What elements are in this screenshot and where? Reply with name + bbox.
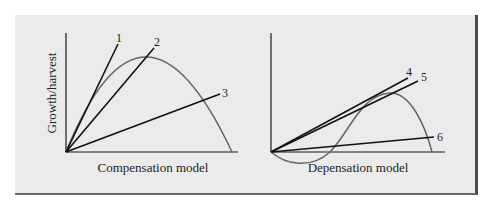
- figure-svg: 1 2 3 Growth/harvest Compensation model …: [0, 0, 493, 207]
- line-label-6: 6: [437, 130, 443, 144]
- line-label-4: 4: [406, 65, 412, 79]
- line-label-1: 1: [116, 31, 122, 45]
- depensation-chart: 4 5 6 Depensation model: [271, 33, 445, 175]
- line-label-2: 2: [154, 35, 160, 49]
- line-label-5: 5: [421, 70, 427, 84]
- harvest-line-2: [66, 48, 154, 152]
- x-axis-label: Depensation model: [308, 160, 409, 175]
- compensation-chart: 1 2 3 Growth/harvest Compensation model: [44, 31, 238, 175]
- growth-curve: [271, 93, 432, 163]
- line-label-3: 3: [222, 86, 228, 100]
- harvest-line-5: [271, 81, 418, 152]
- y-axis-label: Growth/harvest: [44, 52, 59, 133]
- x-axis-label: Compensation model: [98, 160, 209, 175]
- growth-curve: [66, 57, 232, 152]
